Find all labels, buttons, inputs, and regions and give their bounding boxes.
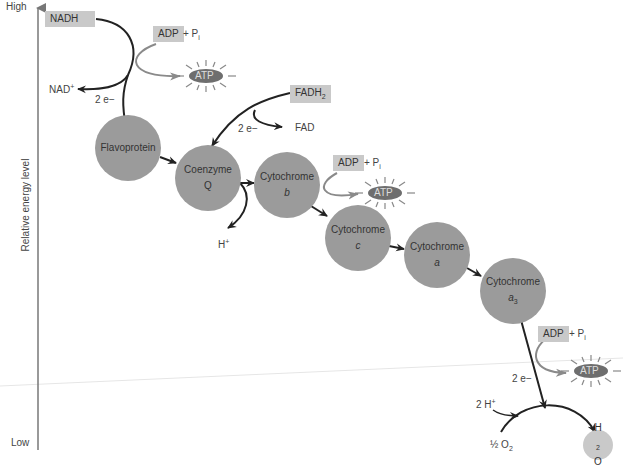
fadh2-box: FADH2 — [290, 85, 331, 103]
fadh2-to-fad-arrow — [254, 110, 282, 127]
atp-synthesis-arrow-3 — [536, 338, 566, 373]
atp-label-1: ATP — [195, 71, 214, 81]
chain-arrow-1 — [160, 157, 176, 163]
nad-plus-label: NAD+ — [49, 83, 74, 95]
atp-label-3: ATP — [580, 366, 599, 376]
atp-synthesis-arrow-2 — [324, 173, 358, 195]
atp-synthesis-arrow-1 — [136, 44, 180, 76]
two-proton-label: 2 H+ — [476, 398, 496, 410]
node-cytochrome-a3: Cytochromea3 — [480, 258, 546, 324]
phosphate-label-2: + Pi — [364, 158, 381, 170]
water-node: H2O — [583, 430, 613, 460]
chain-arrow-5 — [467, 268, 481, 276]
electron-label-1: 2 e− — [95, 95, 115, 105]
adp-box-3: ADP — [538, 326, 569, 342]
node-coenzyme-q: CoenzymeQ — [175, 145, 241, 211]
node-cytochrome-a: Cytochromea — [404, 222, 470, 288]
oxygen-to-water-arrow — [501, 405, 595, 432]
electron-label-2: 2 e− — [238, 124, 258, 134]
diagram-canvas — [0, 0, 623, 465]
chain-arrow-4 — [389, 246, 404, 249]
fad-label: FAD — [295, 123, 314, 133]
proton-input-arrow — [493, 410, 518, 416]
electron-label-3: 2 e− — [512, 374, 532, 384]
phosphate-label-1: + Pi — [183, 29, 200, 41]
node-cytochrome-c: Cytochromec — [325, 205, 391, 271]
chain-arrow-3 — [311, 206, 327, 216]
adp-box-1: ADP — [153, 26, 184, 42]
axis-title: Relative energy level — [21, 145, 31, 265]
fadh2-electron-arrow — [212, 93, 290, 146]
node-flavoprotein: Flavoprotein — [95, 115, 161, 181]
node-cytochrome-b: Cytochromeb — [254, 152, 320, 218]
adp-box-2: ADP — [333, 155, 364, 171]
axis-high-label: High — [6, 2, 27, 12]
axis-low-label: Low — [11, 438, 29, 448]
half-oxygen-label: ½ O2 — [490, 440, 513, 452]
phosphate-label-3: + Pi — [569, 329, 586, 341]
atp-label-2: ATP — [374, 188, 393, 198]
nadh-box: NADH — [45, 11, 95, 27]
proton-label: H+ — [218, 238, 229, 250]
nadh-to-nad-arrow — [78, 19, 133, 89]
